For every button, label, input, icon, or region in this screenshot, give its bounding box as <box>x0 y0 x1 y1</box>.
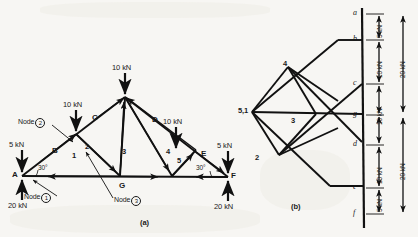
maxwell-point-d: d <box>353 140 357 148</box>
maxwell-dim-cd: 10 kN <box>377 109 384 125</box>
member-number-4: 4 <box>166 148 170 156</box>
node-callout-1-number: 1 <box>41 193 51 203</box>
space-label-c: C <box>92 114 98 122</box>
reaction-label-right: 20 kN <box>214 203 233 211</box>
maxwell-dim-gf: 20 kN <box>400 164 407 180</box>
node-callout-3-number: 3 <box>131 196 141 206</box>
maxwell-dim-ag: 20 kN <box>400 62 407 78</box>
caption-b: (b) <box>291 203 300 211</box>
load-label-right-top: 5 kN <box>217 142 232 150</box>
member-number-5: 5 <box>177 157 181 165</box>
node-callout-1-prefix: Node <box>24 193 40 200</box>
load-label-apex: 10 kN <box>112 64 131 72</box>
truss-applied-loads <box>22 73 228 173</box>
space-label-b: B <box>52 147 58 155</box>
member-number-2: 2 <box>85 143 89 151</box>
maxwell-dim-bc: 10 kN <box>377 62 384 78</box>
joint-label-a: A <box>12 171 18 179</box>
maxwell-point-f: f <box>353 209 355 217</box>
node-callout-2: Node2 <box>18 118 45 128</box>
maxwell-point-g: g <box>353 110 357 118</box>
maxwell-point-e: e <box>353 183 356 191</box>
maxwell-point-a: a <box>353 9 357 17</box>
node-callout-2-number: 2 <box>35 118 45 128</box>
member-number-1: 1 <box>72 152 76 160</box>
truss-maxwell-figure: A F B C D E G 1 2 3 4 5 Node1 Node2 Node… <box>0 0 418 237</box>
node-callout-2-prefix: Node <box>18 118 34 125</box>
maxwell-label-51: 5,1 <box>238 107 248 115</box>
angle-label-right: 30° <box>196 165 206 172</box>
maxwell-label-4: 4 <box>283 60 287 68</box>
maxwell-dim-de: 10 kN <box>377 168 384 184</box>
maxwell-point-c: c <box>353 79 356 87</box>
node-callout-3: Node3 <box>114 196 141 206</box>
load-label-node2: 10 kN <box>63 101 82 109</box>
maxwell-load-line <box>362 8 364 228</box>
joint-label-f: F <box>231 172 236 180</box>
maxwell-dim-ab: 5 kN <box>377 25 384 38</box>
space-label-d: D <box>152 116 158 124</box>
maxwell-label-3: 3 <box>291 117 295 125</box>
node-callout-3-prefix: Node <box>114 196 130 203</box>
load-label-left-top: 5 kN <box>9 141 24 149</box>
space-label-e: E <box>201 150 206 158</box>
maxwell-rays <box>252 40 362 186</box>
truss-bottom-chord <box>22 176 228 177</box>
reaction-label-left: 20 kN <box>8 202 27 210</box>
member-number-3: 3 <box>122 148 126 156</box>
angle-label-left: 30° <box>38 165 48 172</box>
load-label-node4: 10 kN <box>163 118 182 126</box>
space-label-g: G <box>119 182 125 190</box>
maxwell-dim-ef: 5 kN <box>377 199 384 212</box>
maxwell-point-b: b <box>353 35 357 43</box>
maxwell-label-2: 2 <box>255 154 259 162</box>
caption-a: (a) <box>140 219 149 227</box>
node-callout-1: Node1 <box>24 193 51 203</box>
